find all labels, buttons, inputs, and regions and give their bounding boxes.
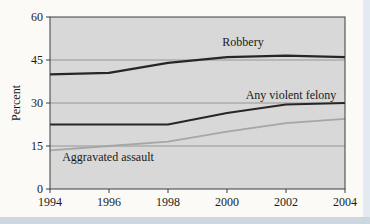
- series-label-robbery: Robbery: [222, 35, 263, 49]
- y-tick-label-60: 60: [31, 10, 43, 24]
- x-tick-label-1998: 1998: [156, 195, 180, 209]
- y-tick-label-15: 15: [31, 139, 43, 153]
- window-right-edge: [363, 0, 370, 217]
- x-tick-label-1996: 1996: [97, 195, 121, 209]
- x-tick-label-2000: 2000: [215, 195, 239, 209]
- x-tick-label-2004: 2004: [333, 195, 357, 209]
- x-tick-label-2002: 2002: [274, 195, 298, 209]
- y-tick-label-0: 0: [37, 182, 43, 196]
- percent-line-chart: 015304560199419961998200020022004Percent…: [0, 0, 370, 217]
- chart-canvas: 015304560199419961998200020022004Percent…: [0, 0, 370, 217]
- series-label-any-violent-felony: Any violent felony: [246, 88, 337, 102]
- y-tick-label-30: 30: [31, 96, 43, 110]
- y-tick-label-45: 45: [31, 53, 43, 67]
- series-label-aggravated-assault: Aggravated assault: [62, 150, 154, 164]
- x-tick-label-1994: 1994: [38, 195, 62, 209]
- y-axis-title: Percent: [9, 84, 23, 121]
- window-bottom-edge: [0, 217, 370, 224]
